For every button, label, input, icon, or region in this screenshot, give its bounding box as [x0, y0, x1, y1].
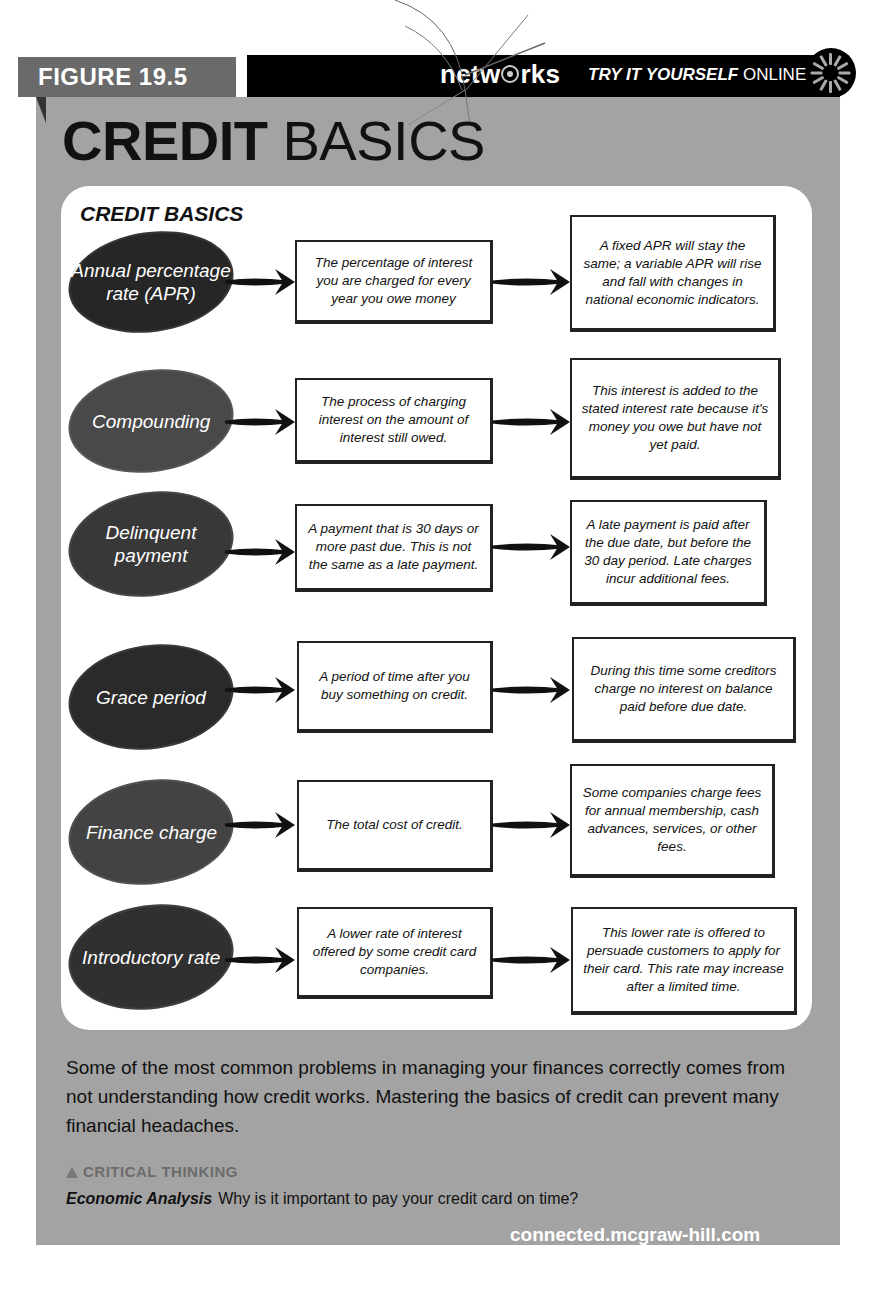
arrow-right-icon [225, 537, 297, 567]
critical-thinking-label: CRITICAL THINKING [83, 1163, 238, 1180]
try-it-rest: ONLINE [738, 65, 806, 84]
detail-box: A late payment is paid after the due dat… [570, 500, 767, 606]
detail-box: During this time some creditors charge n… [572, 637, 796, 743]
try-it-bold: TRY IT YOURSELF [588, 65, 738, 84]
arrow-right-icon [492, 267, 572, 297]
definition-box: The process of charging interest on the … [295, 378, 493, 464]
economic-analysis-question: Economic AnalysisWhy is it important to … [66, 1190, 578, 1208]
mcgraw-hill-link[interactable]: connected.mcgraw-hill.com [510, 1224, 760, 1246]
logo-text-start: netw [440, 59, 500, 89]
diagram-title: CREDIT BASICS [80, 202, 243, 226]
arrow-right-icon [225, 675, 297, 705]
try-it-online-link[interactable]: TRY IT YOURSELF ONLINE [588, 55, 806, 97]
arrow-right-icon [492, 532, 572, 562]
arrow-right-icon [225, 407, 297, 437]
figure-label: FIGURE 19.5 [18, 57, 236, 97]
term-label: Introductory rate [82, 946, 220, 969]
critical-thinking-heading: CRITICAL THINKING [66, 1163, 238, 1180]
logo-text-end: rks [520, 59, 560, 89]
term-label: Annual percentage rate (APR) [68, 259, 234, 305]
question-label: Economic Analysis [66, 1190, 212, 1207]
cropped-preceding-text: ...n't necessarily pay... [60, 0, 253, 12]
arrow-right-icon [492, 810, 572, 840]
detail-box: This lower rate is offered to persuade c… [571, 907, 797, 1015]
arrow-right-icon [492, 675, 572, 705]
fold-corner [36, 97, 46, 123]
arrow-right-icon [225, 810, 297, 840]
arrow-right-icon [225, 945, 297, 975]
term-label: Delinquent payment [68, 521, 234, 567]
triangle-icon [66, 1167, 78, 1178]
radial-burst-icon [806, 48, 856, 98]
definition-box: The total cost of credit. [297, 780, 493, 872]
arrow-right-icon [492, 407, 572, 437]
term-label: Finance charge [86, 821, 217, 844]
networks-logo[interactable]: netwrks [440, 55, 560, 97]
detail-box: Some companies charge fees for annual me… [570, 764, 775, 878]
term-label: Compounding [92, 410, 210, 433]
definition-box: A lower rate of interest offered by some… [297, 907, 493, 999]
term-label: Grace period [96, 686, 206, 709]
definition-box: A payment that is 30 days or more past d… [295, 504, 493, 592]
arrow-right-icon [225, 267, 297, 297]
title-light: BASICS [267, 109, 484, 172]
caption-paragraph: Some of the most common problems in mana… [66, 1053, 786, 1140]
question-text: Why is it important to pay your credit c… [218, 1190, 578, 1207]
page-title: CREDIT BASICS [62, 108, 485, 173]
detail-box: This interest is added to the stated int… [570, 358, 781, 480]
arrow-right-icon [492, 945, 572, 975]
definition-box: The percentage of interest you are charg… [295, 240, 493, 324]
definition-box: A period of time after you buy something… [297, 641, 493, 733]
title-bold: CREDIT [62, 109, 267, 172]
detail-box: A fixed APR will stay the same; a variab… [570, 215, 776, 332]
target-icon [501, 65, 519, 83]
